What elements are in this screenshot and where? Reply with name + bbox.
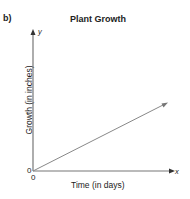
x-axis: [33, 169, 175, 174]
y-axis: [31, 29, 36, 171]
line-arrow-icon: [162, 103, 169, 108]
plot-area: [0, 0, 190, 199]
growth-line: [33, 103, 168, 172]
y-axis-arrow-icon: [31, 29, 36, 35]
x-axis-arrow-icon: [169, 169, 175, 174]
